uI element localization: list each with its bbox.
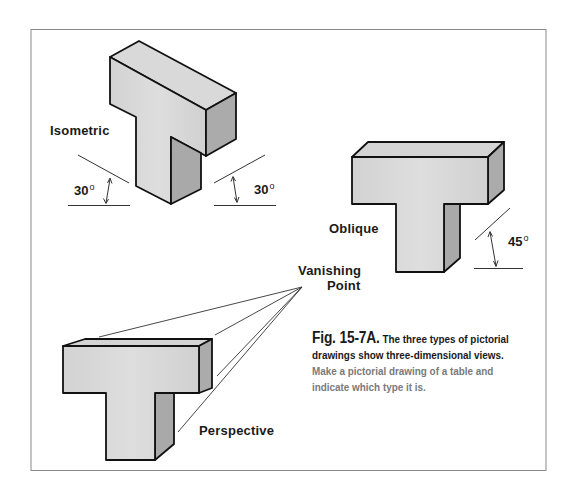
oblique-top-face <box>352 142 504 157</box>
vanishing-point-label-line2: Point <box>327 278 361 293</box>
oblique-t-shape <box>352 142 504 272</box>
iso-left-angle-value: 30 <box>74 183 88 198</box>
perspective-t-shape <box>63 339 212 460</box>
oblique-stem-side-face <box>444 204 460 272</box>
caption-line-3: Make a pictorial drawing of a table and <box>312 363 510 379</box>
oblique-front-face <box>352 157 488 272</box>
figure-canvas <box>0 0 574 497</box>
perspective-label: Perspective <box>199 423 274 438</box>
perspective-front-face <box>63 346 199 460</box>
figure-number: Fig. 15-7A. <box>312 329 380 346</box>
figure-caption: Fig. 15-7A. The three types of pictorial… <box>312 330 542 395</box>
iso-right-angle-label: 30o <box>254 181 274 197</box>
oblique-label: Oblique <box>329 221 379 236</box>
perspective-top-face <box>63 339 212 346</box>
oblique-angle-label: 45o <box>508 233 528 249</box>
isometric-label: Isometric <box>50 123 110 138</box>
iso-left-angle-label: 30o <box>74 182 94 198</box>
perspective-stem-side-face <box>155 393 174 460</box>
oblique-angle-value: 45 <box>508 234 522 249</box>
degree-symbol: o <box>89 182 94 192</box>
degree-symbol: o <box>269 181 274 191</box>
caption-line-4: indicate which type it is. <box>312 379 510 395</box>
caption-line-1-text: The three types of pictorial <box>380 333 509 345</box>
degree-symbol: o <box>523 233 528 243</box>
vanishing-point-label-line1: Vanishing <box>298 263 361 278</box>
caption-line-1: Fig. 15-7A. The three types of pictorial <box>312 330 510 347</box>
isometric-t-shape <box>110 41 236 204</box>
perspective-bar-end-face <box>199 339 212 393</box>
caption-line-2: drawings show three-dimensional views. <box>312 347 510 363</box>
iso-right-angle-value: 30 <box>254 182 268 197</box>
